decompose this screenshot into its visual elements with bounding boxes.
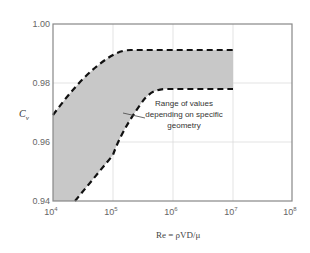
x-axis-label: Re = ρVD/μ (156, 230, 201, 240)
svg-text:108: 108 (283, 206, 297, 217)
y-tick-1.00: 1.00 (32, 19, 50, 29)
y-tick-0.98: 0.98 (32, 78, 50, 88)
y-tick-0.94: 0.94 (32, 196, 50, 206)
svg-text:106: 106 (164, 206, 178, 217)
x-tick-1e5: 105 (104, 206, 118, 217)
annotation-line-1: Range of values (155, 99, 213, 108)
y-tick-0.96: 0.96 (32, 137, 50, 147)
x-tick-1e7: 107 (224, 206, 238, 217)
x-tick-1e4: 104 (44, 206, 58, 217)
x-tick-1e6: 106 (164, 206, 178, 217)
annotation-line-2: depending on specific (145, 110, 222, 119)
x-tick-1e8: 108 (283, 206, 297, 217)
svg-text:107: 107 (224, 206, 238, 217)
y-axis-label: Cv (19, 108, 30, 122)
chart: Range of values depending on specific ge… (0, 0, 310, 253)
annotation-line-3: geometry (167, 121, 200, 130)
svg-text:105: 105 (104, 206, 118, 217)
svg-text:104: 104 (44, 206, 58, 217)
